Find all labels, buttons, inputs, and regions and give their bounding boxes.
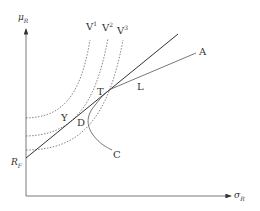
label-v2: V2 — [102, 23, 113, 33]
label-v3: V3 — [117, 26, 128, 36]
label-y: Y — [61, 113, 68, 123]
rf-sub: F — [18, 162, 22, 169]
lower-curve-c — [88, 104, 112, 150]
v1-sup: 1 — [93, 20, 97, 27]
x-axis-subscript: R — [240, 195, 245, 202]
label-t: T — [97, 87, 104, 97]
indifference-curve-v3 — [26, 40, 123, 150]
diagram-canvas — [0, 0, 260, 211]
v2-sup: 2 — [109, 21, 113, 28]
rf-text: R — [11, 157, 18, 167]
label-risk-free: RF — [11, 158, 22, 169]
label-a: A — [199, 47, 206, 57]
x-axis-label: σR — [234, 191, 245, 202]
y-axis-subscript: R — [24, 17, 29, 24]
label-v1: V1 — [86, 22, 97, 32]
indifference-curve-v1 — [26, 40, 90, 118]
label-d: D — [77, 118, 85, 128]
y-axis-label: μR — [18, 13, 28, 24]
label-l: L — [137, 82, 144, 92]
label-c: C — [113, 150, 121, 160]
v3-sup: 3 — [124, 24, 128, 31]
